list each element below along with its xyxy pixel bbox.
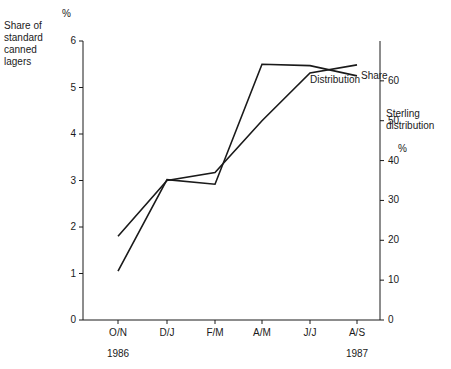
- right-axis-tick-label: 50: [388, 115, 404, 127]
- x-axis-tick-label: D/J: [147, 327, 187, 339]
- left-axis-tick-label: 4: [60, 128, 76, 140]
- x-axis-tick-label: O/N: [98, 327, 138, 339]
- right-axis-tick-label: 40: [388, 155, 404, 167]
- x-axis-tick-label: F/M: [195, 327, 235, 339]
- x-axis-tick-label: A/S: [337, 327, 377, 339]
- x-axis-period-label: 1987: [334, 348, 380, 360]
- series-line-share: [118, 64, 357, 271]
- series-label-share: Share: [361, 70, 388, 82]
- x-axis-tick-label: J/J: [290, 327, 330, 339]
- right-axis-tick-label: 10: [388, 274, 404, 286]
- left-axis-tick-label: 2: [60, 221, 76, 233]
- right-axis-tick-label: 0: [388, 314, 404, 326]
- x-axis-period-label: 1986: [95, 348, 141, 360]
- left-axis-tick-label: 3: [60, 175, 76, 187]
- series-label-distribution: Distribution: [310, 74, 360, 86]
- right-axis-tick-label: 20: [388, 234, 404, 246]
- left-axis-tick-label: 1: [60, 268, 76, 280]
- right-axis-tick-label: 60: [388, 75, 404, 87]
- left-axis-tick-label: 6: [60, 35, 76, 47]
- x-axis-tick-label: A/M: [242, 327, 282, 339]
- series-line-distribution: [118, 65, 357, 236]
- line-chart: Share of standard canned lagers % Sterli…: [0, 0, 451, 369]
- left-axis-tick-label: 5: [60, 82, 76, 94]
- right-axis-tick-label: 30: [388, 194, 404, 206]
- left-axis-tick-label: 0: [60, 314, 76, 326]
